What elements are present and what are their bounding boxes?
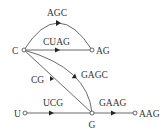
node-label-ag: AG [96,46,110,56]
arrow-icon [56,20,61,26]
node-aag [133,111,137,115]
edge-label-gagc: GAGC [81,70,108,80]
edge-label-gaag: GAAG [99,98,127,108]
arrow-icon [49,111,54,116]
state-graph: C AG U G AAG AGC CUAG CG GAGC UCG GAAG [0,0,168,140]
arrow-icon [55,48,60,53]
edge-label-cuag: CUAG [43,37,70,47]
node-label-c: C [12,46,18,56]
node-g [90,111,94,115]
edge-label-agc: AGC [47,8,67,18]
node-label-u: U [14,109,21,119]
edge-label-cg: CG [31,75,44,85]
node-label-g: G [89,120,96,130]
node-u [23,111,27,115]
node-ag [90,48,94,52]
edge-label-ucg: UCG [43,98,63,108]
node-label-aag: AAG [139,109,160,119]
node-c [22,48,26,52]
arrow-icon [111,111,116,116]
